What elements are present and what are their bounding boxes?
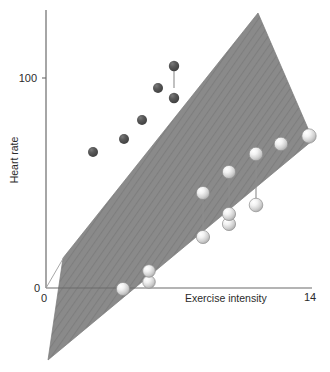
y-axis-title: Heart rate: [8, 136, 20, 183]
regression-plane: [48, 13, 313, 360]
y-tick-label-0: 0: [34, 282, 40, 294]
chart-figure: 100 0 0 14 Exercise intensity Heart rate: [0, 0, 330, 372]
data-point-dark[interactable]: [119, 134, 129, 144]
data-point-light[interactable]: [302, 129, 316, 143]
data-point-light[interactable]: [196, 186, 209, 199]
y-tick-label-100: 100: [19, 72, 37, 84]
x-tick-label-14: 14: [304, 291, 316, 303]
data-point-light[interactable]: [274, 137, 288, 151]
data-point-dark[interactable]: [169, 61, 179, 71]
data-point-light[interactable]: [222, 165, 235, 178]
x-axis-title: Exercise intensity: [185, 292, 267, 304]
scatter-plot-svg: 100 0 0 14 Exercise intensity Heart rate: [0, 0, 330, 372]
data-point-dark[interactable]: [169, 93, 179, 103]
data-point-dark[interactable]: [153, 83, 163, 93]
data-point-dark[interactable]: [88, 147, 98, 157]
data-point-light[interactable]: [249, 147, 263, 161]
data-point-light[interactable]: [222, 207, 235, 220]
x-tick-label-0: 0: [41, 292, 47, 304]
data-point-light[interactable]: [249, 198, 263, 212]
data-point-light[interactable]: [116, 282, 129, 295]
data-point-light[interactable]: [143, 265, 156, 278]
data-point-dark[interactable]: [137, 115, 147, 125]
data-point-light[interactable]: [196, 230, 209, 243]
